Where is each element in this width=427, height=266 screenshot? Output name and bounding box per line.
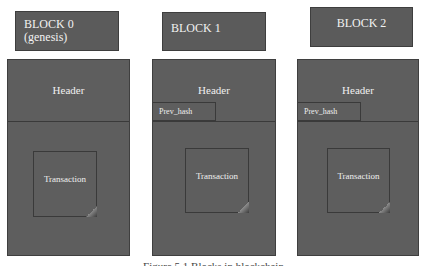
block-0-transaction-label: Transaction [34,174,96,184]
block-1-header-divider [153,121,275,122]
block-2-header-divider [298,121,418,122]
page-curl-icon [86,206,97,217]
block-0-header-divider [8,121,129,122]
block-0-transaction: Transaction [33,151,97,217]
block-1-title: BLOCK 1 [171,22,265,35]
block-0-label: BLOCK 0 (genesis) [15,11,119,51]
block-2-transaction: Transaction [327,148,390,213]
block-2-prev-hash: Prev_hash [298,102,361,121]
page-curl-icon [238,202,249,213]
block-1: Header Prev_hash Transaction [152,59,276,256]
block-1-prev-hash: Prev_hash [153,102,216,121]
block-1-transaction: Transaction [185,148,249,213]
block-1-transaction-label: Transaction [186,171,248,181]
block-2-title: BLOCK 2 [311,17,412,30]
block-2-transaction-label: Transaction [328,171,389,181]
block-2: Header Prev_hash Transaction [297,59,419,256]
block-2-label: BLOCK 2 [310,7,413,47]
block-2-header: Header [298,84,418,96]
block-1-label: BLOCK 1 [162,12,266,51]
figure-caption: Figure 5.1 Blocks in blockchain [0,258,427,266]
block-0-header: Header [8,84,129,96]
block-0-subtitle: (genesis) [24,31,118,44]
block-1-header: Header [153,84,275,96]
block-0: Header Transaction [7,59,130,256]
page-curl-icon [379,202,390,213]
